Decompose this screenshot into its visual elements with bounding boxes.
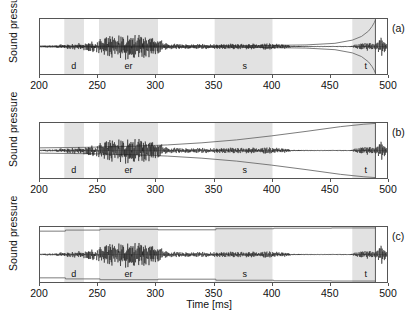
segment-label-er: er (124, 269, 132, 279)
segment-label-d: d (71, 165, 76, 175)
envelope-lower (40, 278, 375, 281)
x-tick (39, 179, 40, 182)
segment-label-s: s (242, 269, 247, 279)
segment-label-t: t (364, 269, 367, 279)
panel-b: Sound pressure derst 2002503003504004505… (0, 108, 418, 212)
x-tick-label: 300 (147, 79, 165, 91)
speech-waveform (40, 243, 387, 268)
y-axis-label-b: Sound pressure (7, 95, 21, 167)
x-tick (272, 179, 273, 182)
segment-label-s: s (242, 165, 247, 175)
panel-tag-c: (c) (392, 230, 404, 242)
y-axis-label-a: Sound pressure (7, 0, 21, 63)
x-tick (272, 283, 273, 286)
x-tick (39, 75, 40, 78)
x-tick (330, 283, 331, 286)
x-tick-label: 200 (30, 79, 48, 91)
x-tick-label: 250 (88, 79, 106, 91)
x-tick (214, 179, 215, 182)
panel-tag-a: (a) (392, 22, 405, 34)
x-axis-b: 200250300350400450500 (39, 179, 388, 201)
envelope-upper (40, 20, 375, 46)
panel-tag-b: (b) (392, 126, 405, 138)
x-tick-label: 400 (263, 79, 281, 91)
plot-svg-c (40, 227, 387, 282)
envelope-upper (40, 123, 375, 147)
plot-area-c: derst (39, 226, 388, 283)
x-tick-label: 450 (321, 183, 339, 195)
speech-waveform (40, 35, 387, 60)
x-tick (214, 75, 215, 78)
speech-waveform (40, 139, 387, 164)
segment-label-er: er (124, 61, 132, 71)
segment-label-t: t (364, 165, 367, 175)
plot-area-b: derst (39, 122, 388, 179)
plot-svg-a (40, 19, 387, 74)
x-tick (97, 75, 98, 78)
x-tick (388, 75, 389, 78)
x-tick-label: 400 (263, 183, 281, 195)
x-tick-label: 250 (88, 183, 106, 195)
segment-label-d: d (71, 61, 76, 71)
x-tick-label: 450 (321, 79, 339, 91)
x-tick (388, 283, 389, 286)
plot-area-a: derst (39, 18, 388, 75)
x-tick (330, 179, 331, 182)
envelope-upper (40, 228, 375, 231)
x-tick-label: 500 (379, 183, 397, 195)
x-tick (272, 75, 273, 78)
x-tick-label: 300 (147, 183, 165, 195)
envelope-lower (40, 153, 375, 177)
x-tick (330, 75, 331, 78)
plot-svg-b (40, 123, 387, 178)
x-tick (388, 179, 389, 182)
x-tick (97, 179, 98, 182)
x-tick (155, 75, 156, 78)
x-axis-a: 200250300350400450500 (39, 75, 388, 97)
segment-label-s: s (242, 61, 247, 71)
segment-label-d: d (71, 269, 76, 279)
x-axis-label: Time [ms] (0, 298, 418, 310)
x-tick-label: 350 (205, 79, 223, 91)
panel-a: Sound pressure derst 2002503003504004505… (0, 4, 418, 108)
x-tick-label: 350 (205, 183, 223, 195)
x-tick (155, 283, 156, 286)
segment-label-t: t (364, 61, 367, 71)
x-tick (214, 283, 215, 286)
x-tick (39, 283, 40, 286)
x-tick (97, 283, 98, 286)
x-tick-label: 500 (379, 79, 397, 91)
y-axis-label-c: Sound pressure (7, 199, 21, 271)
figure-speech-waveform-panels: Sound pressure derst 2002503003504004505… (0, 0, 418, 324)
segment-label-er: er (124, 165, 132, 175)
x-tick (155, 179, 156, 182)
x-tick-label: 200 (30, 183, 48, 195)
